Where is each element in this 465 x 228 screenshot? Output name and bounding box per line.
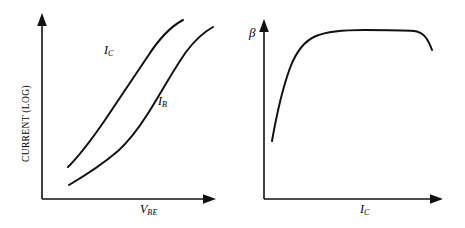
left-chart-svg: [0, 0, 232, 228]
x-axis-label-right-subscript: C: [364, 208, 370, 217]
y-axis-arrowhead-right: [259, 19, 269, 32]
chart-panel-left: CURRENT (LOG) IC IB VBE: [0, 0, 232, 228]
right-chart-svg: [232, 0, 465, 228]
x-axis-label-left: VBE: [140, 203, 158, 217]
x-axis-arrowhead-left: [203, 194, 216, 204]
chart-panel-right: β IC: [232, 0, 465, 228]
y-axis-label-right: β: [249, 26, 255, 39]
figure-container: CURRENT (LOG) IC IB VBE β IC: [0, 0, 465, 228]
curve-label-ib-subscript: B: [162, 100, 167, 109]
curve-label-ic: IC: [104, 44, 114, 58]
x-axis-arrowhead-right: [430, 194, 443, 204]
curve-label-ib: IB: [158, 95, 167, 109]
y-axis-arrowhead-left: [37, 13, 47, 26]
y-axis-label-left: CURRENT (LOG): [22, 85, 32, 162]
x-axis-label-right: IC: [360, 203, 370, 217]
x-axis-label-left-subscript: BE: [147, 208, 157, 217]
curve-label-ic-subscript: C: [108, 49, 114, 58]
curve-beta: [272, 30, 432, 141]
curve-base-current: [69, 27, 213, 185]
